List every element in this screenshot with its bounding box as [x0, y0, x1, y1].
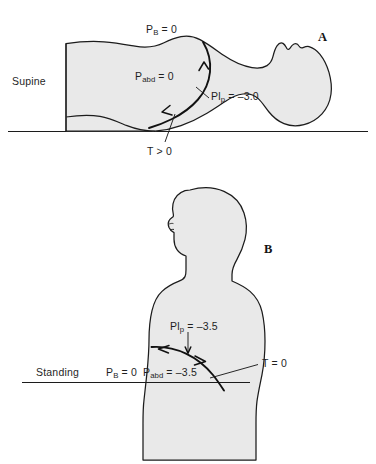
supine-plp-value: = –3.0 [228, 90, 259, 102]
standing-pabd-subscript: abd [150, 371, 163, 380]
supine-tension-label: T > 0 [147, 146, 172, 157]
supine-pabd-subscript: abd [142, 75, 155, 84]
standing-pb-label: PB = 0 [106, 367, 137, 378]
standing-plp-symbol: Pl [170, 320, 180, 332]
standing-pb-subscript: B [113, 371, 118, 380]
diagram-artwork [0, 0, 376, 464]
supine-pabd-value: = 0 [158, 70, 174, 82]
figure-root: A Supine PB = 0 Pabd = 0 Plp = –3.0 T > … [0, 0, 376, 464]
supine-pb-label: PB = 0 [146, 24, 177, 35]
panel-letter-a: A [318, 30, 327, 45]
supine-posture-label: Supine [12, 76, 46, 87]
panel-b-artwork [22, 188, 265, 460]
supine-plp-subscript: p [221, 95, 225, 104]
standing-plp-subscript: p [180, 325, 184, 334]
standing-face-lip-detail [169, 223, 173, 224]
supine-plp-label: Plp = –3.0 [211, 91, 259, 102]
panel-letter-b: B [264, 242, 272, 257]
supine-torso-outline [66, 36, 331, 131]
standing-plp-value: = –3.5 [187, 320, 218, 332]
supine-pb-value: = 0 [162, 23, 178, 35]
standing-tension-label: T = 0 [262, 358, 287, 369]
supine-pb-subscript: B [153, 28, 158, 37]
standing-pabd-label: Pabd = –3.5 [143, 367, 197, 378]
supine-plp-symbol: Pl [211, 90, 221, 102]
standing-posture-label: Standing [36, 367, 79, 378]
standing-pabd-value: = –3.5 [166, 366, 197, 378]
standing-plp-label: Plp = –3.5 [170, 321, 218, 332]
supine-pabd-label: Pabd = 0 [135, 71, 174, 82]
standing-pb-value: = 0 [122, 366, 138, 378]
panel-a-artwork [8, 36, 368, 142]
